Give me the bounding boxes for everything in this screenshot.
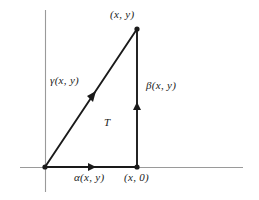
- label-beta-path: β(x, y): [146, 80, 176, 91]
- vertex-origin-dot: [42, 164, 47, 169]
- vertex-apex-dot: [134, 26, 139, 31]
- vertex-foot-dot: [134, 164, 139, 169]
- math-figure-triangle-region: (x, y) γ(x, y) β(x, y) T α(x, y) (x, 0): [0, 0, 259, 200]
- figure-canvas: [0, 0, 259, 200]
- arrowhead-right-icon: [88, 163, 96, 171]
- direction-arrowheads: [87, 91, 141, 171]
- label-alpha-path: α(x, y): [74, 172, 104, 183]
- label-region-t: T: [104, 117, 110, 128]
- label-apex-point: (x, y): [110, 9, 134, 20]
- label-foot-point: (x, 0): [124, 172, 149, 183]
- label-gamma-path: γ(x, y): [50, 75, 79, 86]
- arrowhead-up-icon: [133, 102, 141, 110]
